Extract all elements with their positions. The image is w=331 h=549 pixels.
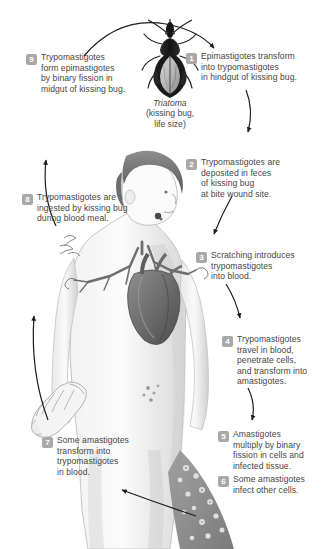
step-text-2: Trypomastigotes are deposited in feces o… <box>201 157 280 199</box>
organism-caption-line3: life size) <box>132 119 208 129</box>
arrow-4-to-5 <box>248 388 253 420</box>
step-badge-4: 4 <box>222 336 233 347</box>
step-badge-7: 7 <box>42 437 53 448</box>
arrow-1-to-2 <box>246 90 251 132</box>
step-text-6: Some amastigotes infect other cells. <box>233 474 305 495</box>
arrow-2-to-3 <box>214 196 232 234</box>
step-callout-7: 7 Some amastigotes transform into trypom… <box>42 435 160 477</box>
step-text-3: Scratching introduces trypomastigotes in… <box>211 250 295 282</box>
step-badge-9: 9 <box>26 54 37 65</box>
organism-caption: Triatoma (kissing bug, life size) <box>132 98 208 129</box>
step-callout-1: 1 Epimastigotes transform into trypomast… <box>186 51 326 83</box>
organism-scientific-name: Triatoma <box>132 98 208 108</box>
step-badge-5: 5 <box>218 431 229 442</box>
step-callout-8: 8 Trypomastigotes are ingested by kissin… <box>22 192 152 224</box>
step-badge-1: 1 <box>186 53 197 64</box>
step-badge-3: 3 <box>196 252 207 263</box>
life-cycle-diagram: Triatoma (kissing bug, life size) 9 Tryp… <box>0 0 331 549</box>
step-text-5: Amastigotes multiply by binary fission i… <box>233 429 304 471</box>
step-callout-5: 5 Amastigotes multiply by binary fission… <box>218 429 328 471</box>
step-callout-3: 3 Scratching introduces trypomastigotes … <box>196 250 328 282</box>
arrow-7-to-8 <box>33 316 48 420</box>
step-badge-2: 2 <box>186 159 197 170</box>
step-callout-6: 6 Some amastigotes infect other cells. <box>218 474 328 495</box>
step-callout-4: 4 Trypomastigotes travel in blood, penet… <box>222 334 328 387</box>
arrow-3-to-4 <box>226 284 240 318</box>
step-text-8: Trypomastigotes are ingested by kissing … <box>37 192 128 224</box>
step-text-7: Some amastigotes transform into trypomas… <box>57 435 129 477</box>
step-text-9: Trypomastigotes form epimastigotes by bi… <box>41 52 125 94</box>
organism-caption-line2: (kissing bug, <box>132 108 208 118</box>
step-badge-8: 8 <box>22 194 33 205</box>
step-text-4: Trypomastigotes travel in blood, penetra… <box>237 334 307 387</box>
step-badge-6: 6 <box>218 476 229 487</box>
step-callout-9: 9 Trypomastigotes form epimastigotes by … <box>26 52 142 94</box>
step-callout-2: 2 Trypomastigotes are deposited in feces… <box>186 157 326 199</box>
arrow-6-to-7 <box>122 490 196 516</box>
step-text-1: Epimastigotes transform into trypomastig… <box>201 51 297 83</box>
